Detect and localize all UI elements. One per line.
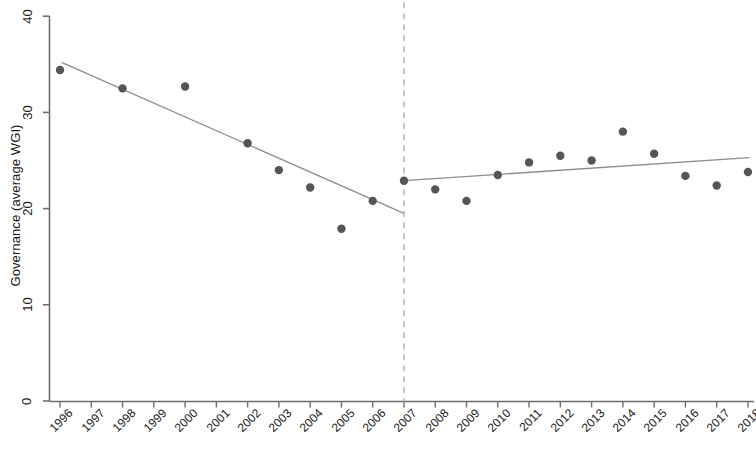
data-point [56, 66, 64, 74]
data-point [712, 181, 720, 189]
plot-area [0, 0, 756, 450]
data-point [369, 197, 377, 205]
data-point [681, 172, 689, 180]
y-axis-tick-label: 10 [14, 298, 40, 312]
data-point [337, 225, 345, 233]
chart-container: Governance (average WGI) 010203040 19961… [0, 0, 756, 450]
data-point [619, 127, 627, 135]
y-axis-tick-label: 40 [14, 9, 40, 23]
data-point [650, 150, 658, 158]
data-point [462, 197, 470, 205]
data-point [431, 185, 439, 193]
post-cutoff-trend [404, 158, 750, 181]
trend-lines-group [62, 62, 750, 213]
axes [50, 16, 755, 402]
pre-cutoff-trend [62, 62, 404, 213]
data-point [494, 171, 502, 179]
y-axis-tick-label: 20 [14, 202, 40, 216]
data-point [118, 84, 126, 92]
y-axis-tick-label: 0 [14, 394, 40, 408]
data-point [400, 177, 408, 185]
data-point [744, 168, 752, 176]
data-point [587, 156, 595, 164]
y-axis-tick-label: 30 [14, 105, 40, 119]
data-point [243, 139, 251, 147]
data-point [306, 183, 314, 191]
y-axis-ticks [43, 16, 50, 401]
data-point [181, 82, 189, 90]
data-point [275, 166, 283, 174]
data-point [556, 151, 564, 159]
data-point [525, 158, 533, 166]
